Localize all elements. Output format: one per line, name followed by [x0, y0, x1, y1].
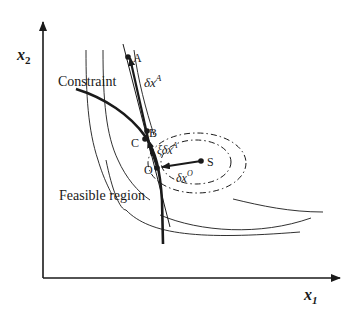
xi-delta-xa-label: ξδxA [157, 141, 178, 157]
delta-xa-label: δxA [144, 73, 162, 90]
contour-line-5 [233, 199, 323, 212]
constraint-label: Constraint [58, 74, 116, 89]
point-b-label: B [149, 126, 157, 140]
point-s-label: S [207, 155, 214, 169]
optimization-diagram: x2 x1 Constraint Feasible region A B C O… [0, 0, 358, 319]
y-axis-label: x2 [16, 46, 31, 66]
point-o-marker [154, 165, 160, 171]
delta-xo-label: δxO [176, 169, 193, 185]
contour-line-1 [86, 50, 112, 195]
objective-contours [86, 50, 323, 236]
point-o-label: O [144, 163, 153, 177]
delta-xo-vector [162, 161, 201, 167]
axes [43, 22, 340, 278]
quadratic-model-contours [148, 133, 246, 193]
x-axis-label: x1 [303, 286, 318, 306]
point-a-label: A [133, 51, 142, 65]
point-s-marker [198, 158, 204, 164]
point-c-marker [142, 136, 148, 142]
feasible-region-label: Feasible region [59, 188, 145, 203]
contour-line-4 [160, 215, 311, 230]
contour-line-3 [126, 210, 300, 236]
point-c-label: C [131, 136, 139, 150]
point-a-marker [125, 54, 131, 60]
